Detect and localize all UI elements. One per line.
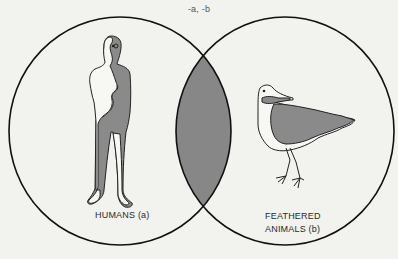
bird-icon <box>258 85 355 188</box>
set-a-label: HUMANS (a) <box>95 209 150 222</box>
set-b-label: FEATHERED ANIMALS (b) <box>265 210 321 236</box>
venn-diagram: -a, -b HUMANS (a) FEATHERED ANIMALS (b) <box>0 0 398 259</box>
venn-graphic <box>0 0 398 259</box>
set-b-label-line1: FEATHERED <box>265 210 321 223</box>
set-b-label-line2: ANIMALS (b) <box>265 223 321 236</box>
human-figure-icon <box>88 36 133 207</box>
diagram-title: -a, -b <box>0 3 398 16</box>
